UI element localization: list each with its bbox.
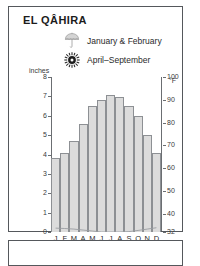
- tick-mark: [163, 232, 166, 233]
- right-axis-tick: 60: [167, 163, 189, 173]
- temperature-bar: [124, 106, 133, 232]
- left-axis-tick: 7: [29, 91, 47, 101]
- right-axis-tick: 40: [167, 209, 189, 219]
- right-axis-tick: 50: [167, 186, 189, 196]
- temperature-bar: [51, 158, 60, 232]
- umbrella-icon: [61, 31, 83, 50]
- right-axis-line: [161, 77, 162, 232]
- temperature-bar: [79, 124, 88, 233]
- legend-label-rainy-season: January & February: [87, 36, 162, 46]
- right-axis-tick: 80: [167, 118, 189, 128]
- tick-mark: [163, 77, 166, 78]
- left-axis-tick: 1: [29, 208, 47, 218]
- right-axis-tick: 32: [167, 227, 189, 237]
- temperature-bar: [97, 100, 106, 232]
- left-axis-tick: 5: [29, 130, 47, 140]
- left-axis-tick: 0: [29, 227, 47, 237]
- left-axis-tick: 3: [29, 169, 47, 179]
- temperature-bar: [69, 141, 78, 232]
- chart-legend: January & February: [61, 31, 162, 69]
- tick-mark: [163, 145, 166, 146]
- legend-label-sunny-season: April–September: [87, 55, 150, 65]
- temperature-bar: [134, 116, 143, 232]
- right-axis-tick: 100: [167, 72, 189, 82]
- tick-mark: [163, 100, 166, 101]
- temperature-bar: [88, 106, 97, 232]
- right-axis-tick: 70: [167, 140, 189, 150]
- left-axis-tick: 6: [29, 111, 47, 121]
- next-panel: [8, 240, 183, 266]
- climate-chart-panel: EL QÂHIRA January & February: [8, 6, 183, 232]
- page-title: EL QÂHIRA: [23, 14, 87, 26]
- left-axis-tick: 2: [29, 188, 47, 198]
- temperature-bar: [143, 135, 152, 232]
- tick-mark: [163, 123, 166, 124]
- legend-item-rainy-season: January & February: [61, 31, 162, 50]
- left-axis-tick: 8: [29, 72, 47, 82]
- climate-chart: inches °F 876543210 10090807060504032 JF…: [9, 67, 200, 237]
- tick-mark: [163, 214, 166, 215]
- left-axis-tick: 4: [29, 150, 47, 160]
- tick-mark: [163, 191, 166, 192]
- tick-mark: [163, 168, 166, 169]
- temperature-bar: [152, 153, 161, 232]
- temperature-bar: [60, 153, 69, 232]
- right-axis-tick: 90: [167, 95, 189, 105]
- temperature-bar: [106, 95, 115, 232]
- temperature-bars: [51, 77, 161, 232]
- temperature-bar: [115, 97, 124, 232]
